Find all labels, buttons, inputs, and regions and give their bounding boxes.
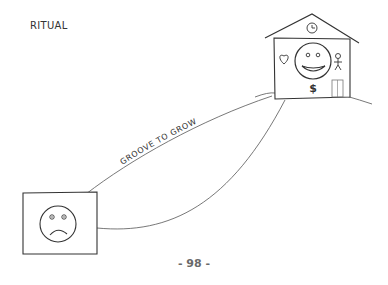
clock-icon xyxy=(307,23,317,33)
connector-label: GROOVE TO GROW xyxy=(119,117,199,167)
dollar-symbol: $ xyxy=(309,82,317,95)
connector-upper xyxy=(86,96,272,194)
diagram-canvas: GROOVE TO GROW xyxy=(0,0,388,285)
page-number: - 98 - xyxy=(0,257,388,270)
start-box xyxy=(23,192,97,254)
house: $ xyxy=(265,14,359,99)
